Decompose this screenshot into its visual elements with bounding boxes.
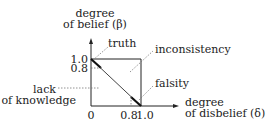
falsity-label: falsity [155,78,189,89]
inconsistency-label: inconsistency [155,44,231,55]
x-axis-label-line2: of disbelief (δ) [185,108,265,119]
y-axis-arrow-icon [89,38,93,44]
y-tick-0.8: 0.8 [60,63,88,74]
x-tick-1.0: 1.0 [135,110,155,121]
truth-label: truth [108,38,136,49]
truth-segment [91,59,101,68]
lack-label-line2: of knowledge [0,95,76,106]
y-axis-label-line2: of belief (β) [46,19,144,30]
x-axis-arrow-icon [173,104,179,108]
x-tick-0: 0 [84,110,98,121]
falsity-segment [131,97,141,106]
